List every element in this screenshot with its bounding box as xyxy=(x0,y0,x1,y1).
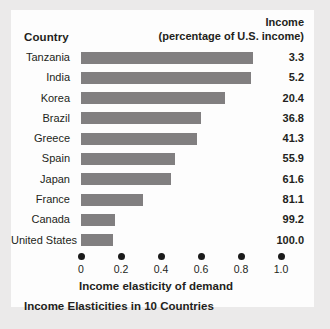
row-value-income-pct: 61.6 xyxy=(283,173,304,185)
bar xyxy=(81,133,197,145)
chart-card: Country Income (percentage of U.S. incom… xyxy=(11,10,314,307)
bar xyxy=(81,92,225,104)
bar-track xyxy=(81,153,281,165)
row-label-country: Brazil xyxy=(11,112,70,124)
bar-track xyxy=(81,133,281,145)
bar-track xyxy=(81,214,281,226)
bar xyxy=(81,52,253,64)
figure-caption: Income Elasticities in 10 Countries xyxy=(24,300,214,312)
bar-track xyxy=(81,52,281,64)
axis-tick-label: 0.4 xyxy=(141,263,181,275)
table-row: Greece41.3 xyxy=(11,129,314,149)
x-axis: 00.20.40.60.81.0 xyxy=(81,253,281,283)
axis-tick-dot xyxy=(278,253,285,260)
row-value-income-pct: 5.2 xyxy=(289,71,304,83)
column-header-country: Country xyxy=(24,31,69,43)
row-label-country: Canada xyxy=(11,213,70,225)
bar xyxy=(81,153,175,165)
row-label-country: Korea xyxy=(11,92,70,104)
table-row: Tanzania3.3 xyxy=(11,48,314,68)
table-row: Brazil36.8 xyxy=(11,109,314,129)
row-value-income-pct: 20.4 xyxy=(283,92,304,104)
bar xyxy=(81,194,143,206)
table-row: United States100.0 xyxy=(11,231,314,251)
row-value-income-pct: 99.2 xyxy=(283,213,304,225)
row-label-country: France xyxy=(11,193,70,205)
row-value-income-pct: 41.3 xyxy=(283,132,304,144)
table-row: Japan61.6 xyxy=(11,170,314,190)
bar xyxy=(81,214,115,226)
table-row: Spain55.9 xyxy=(11,149,314,169)
row-value-income-pct: 55.9 xyxy=(283,152,304,164)
chart-header: Country Income (percentage of U.S. incom… xyxy=(11,10,314,50)
axis-tick-label: 0.8 xyxy=(221,263,261,275)
column-header-income-line2: (percentage of U.S. income) xyxy=(159,30,304,42)
row-label-country: Greece xyxy=(11,132,70,144)
bar-track xyxy=(81,92,281,104)
row-label-country: India xyxy=(11,71,70,83)
bar xyxy=(81,234,113,246)
bar-track xyxy=(81,234,281,246)
bar-track xyxy=(81,112,281,124)
bar xyxy=(81,72,251,84)
table-row: Korea20.4 xyxy=(11,89,314,109)
row-label-country: Tanzania xyxy=(11,51,70,63)
column-header-income-line1: Income xyxy=(265,16,304,28)
table-row: France81.1 xyxy=(11,190,314,210)
table-row: India5.2 xyxy=(11,68,314,88)
bar-track xyxy=(81,173,281,185)
axis-tick-label: 0.2 xyxy=(101,263,141,275)
axis-tick-dot xyxy=(158,253,165,260)
table-row: Canada99.2 xyxy=(11,210,314,230)
row-label-country: Spain xyxy=(11,152,70,164)
bar-track xyxy=(81,72,281,84)
x-axis-title: Income elasticity of demand xyxy=(11,280,301,292)
bar-rows: Tanzania3.3India5.2Korea20.4Brazil36.8Gr… xyxy=(11,48,314,251)
axis-tick-dot xyxy=(78,253,85,260)
axis-tick-dot xyxy=(118,253,125,260)
row-label-country: United States xyxy=(11,234,70,246)
bar xyxy=(81,173,171,185)
axis-tick-label: 0 xyxy=(61,263,101,275)
row-value-income-pct: 81.1 xyxy=(283,193,304,205)
row-value-income-pct: 3.3 xyxy=(289,51,304,63)
axis-tick-dot xyxy=(238,253,245,260)
figure-root: Country Income (percentage of U.S. incom… xyxy=(0,0,330,329)
axis-tick-dot xyxy=(198,253,205,260)
axis-tick-label: 0.6 xyxy=(181,263,221,275)
row-value-income-pct: 100.0 xyxy=(276,234,304,246)
axis-tick-label: 1.0 xyxy=(261,263,301,275)
row-label-country: Japan xyxy=(11,173,70,185)
bar xyxy=(81,112,201,124)
bar-track xyxy=(81,194,281,206)
row-value-income-pct: 36.8 xyxy=(283,112,304,124)
